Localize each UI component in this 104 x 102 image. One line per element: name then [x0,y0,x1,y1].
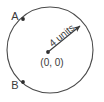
point-b-label: B [11,79,18,91]
point-a-dot [21,17,25,21]
point-a-label: A [11,10,19,22]
radius-measurement-label: 4 units [47,22,77,49]
point-b-dot [21,80,25,84]
center-coordinate-label: (0, 0) [40,57,63,68]
diagram-canvas: A B (0, 0) 4 units [0,0,104,102]
circle-diagram-figure: A B (0, 0) 4 units [0,0,104,102]
